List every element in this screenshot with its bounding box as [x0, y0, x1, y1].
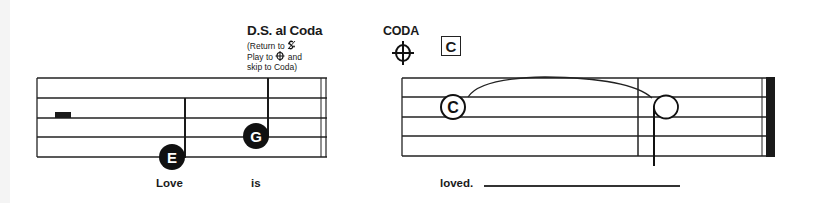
lyric-loved: loved.	[440, 177, 473, 189]
lyric-is: is	[251, 177, 261, 189]
lyric-love: Love	[156, 177, 183, 189]
ds-al-coda-explanation: (Return to Play to and skip to Coda)	[247, 40, 302, 72]
left-staff	[37, 78, 327, 157]
ds-al-coda-title: D.S. al Coda	[247, 23, 322, 38]
final-barline	[766, 77, 775, 157]
ds-line3: skip to Coda)	[247, 62, 302, 72]
note-letter: C	[447, 99, 459, 116]
note-c-whole: C	[441, 95, 465, 119]
tie-arc	[468, 77, 652, 98]
ds-line2: Play to	[247, 52, 273, 62]
ds-line1: (Return to	[247, 41, 285, 51]
segno-icon	[287, 40, 296, 50]
coda-label: CODA	[383, 24, 419, 38]
ds-line2b: and	[288, 52, 302, 62]
section-marker-c: C	[441, 36, 461, 56]
note-g: G	[243, 78, 269, 149]
coda-small-icon	[275, 51, 285, 61]
note-letter: E	[167, 149, 177, 166]
note-e: E	[159, 98, 185, 170]
note-letter: G	[250, 128, 262, 145]
coda-sign-icon	[392, 41, 414, 65]
half-rest-icon	[55, 112, 71, 118]
lyric-extender-line	[484, 185, 680, 187]
